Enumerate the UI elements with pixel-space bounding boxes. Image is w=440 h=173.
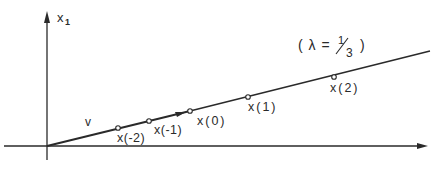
- vector-v-label: v: [85, 115, 91, 129]
- point-x-2: [332, 75, 337, 80]
- point-x-minus-2: [116, 126, 121, 131]
- y-axis-arrowhead-icon: [44, 11, 50, 23]
- point-label-x-0: x(0): [197, 114, 227, 128]
- point-label-x-1: x(1): [248, 100, 278, 114]
- point-label-x-2: x(2): [330, 81, 360, 95]
- lambda-label-denominator: 3: [346, 46, 353, 60]
- diagram-canvas: x 1 ( λ = 1 3 ) v x(-2) x(-1) x(0) x(1) …: [0, 0, 440, 173]
- point-x-1: [246, 95, 251, 100]
- y-axis-label-subscript: 1: [65, 17, 70, 27]
- lambda-label-close: ): [360, 37, 365, 53]
- point-x-minus-1: [147, 119, 152, 124]
- y-axis-label: x: [57, 10, 64, 25]
- trajectory-line: [190, 51, 430, 111]
- point-label-x-minus-2: x(-2): [117, 131, 145, 145]
- lambda-label-open: ( λ =: [298, 37, 331, 53]
- vector-v-arrowhead-icon: [175, 112, 186, 117]
- point-label-x-minus-1: x(-1): [154, 123, 182, 137]
- x-axis-arrowhead-icon: [417, 143, 428, 149]
- point-x-0: [188, 109, 193, 114]
